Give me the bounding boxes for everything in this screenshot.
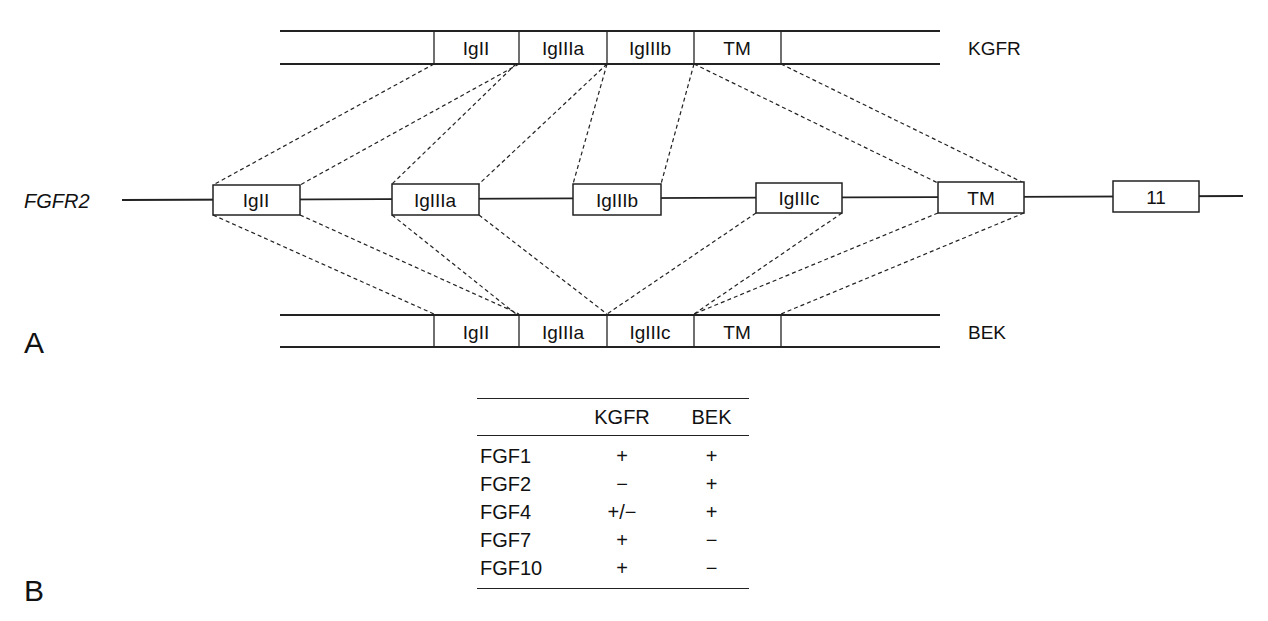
ligand-name: FGF10 — [477, 554, 570, 589]
ligand-name: FGF2 — [477, 470, 570, 498]
bek-isoform-bar — [280, 315, 940, 347]
table-row: FGF4 +/− + — [477, 498, 749, 526]
fgfr2-gene-backbone — [122, 181, 1243, 215]
kgfr-binding: +/− — [570, 498, 674, 526]
table-header-row: KGFR BEK — [477, 399, 749, 436]
header-blank — [477, 399, 570, 436]
ligand-name: FGF1 — [477, 436, 570, 471]
bek-binding: − — [674, 526, 749, 554]
panel-label-a: A — [24, 326, 44, 360]
kgfr-domain-TM: TM — [723, 38, 750, 59]
gene-name-label: FGFR2 — [24, 190, 90, 212]
kgfr-binding: + — [570, 436, 674, 471]
kgfr-binding: − — [570, 470, 674, 498]
kgfr-binding: + — [570, 554, 674, 589]
gene-exon-label-IgIIIb: IgIIIb — [596, 190, 638, 211]
kgfr-domain-IgIIIb: IgIIIb — [629, 38, 671, 59]
gene-exon-label-11: 11 — [1146, 187, 1166, 208]
kgfr-isoform-label: KGFR — [968, 38, 1021, 59]
table-row: FGF2 − + — [477, 470, 749, 498]
kgfr-domain-IgII: IgII — [463, 38, 489, 59]
header-bek: BEK — [674, 399, 749, 436]
bek-isoform-label: BEK — [968, 322, 1006, 343]
gene-exon-label-IgII: IgII — [243, 190, 269, 211]
bek-binding: + — [674, 498, 749, 526]
panel-label-b: B — [24, 574, 44, 608]
bek-binding: + — [674, 436, 749, 471]
kgfr-isoform-bar — [280, 31, 940, 64]
bek-binding: + — [674, 470, 749, 498]
bek-domain-IgIIIa: IgIIIa — [542, 322, 585, 343]
table-row: FGF1 + + — [477, 436, 749, 471]
table-row: FGF10 + − — [477, 554, 749, 589]
kgfr-binding: + — [570, 526, 674, 554]
bek-domain-IgII: IgII — [463, 322, 489, 343]
bek-domain-TM: TM — [723, 322, 750, 343]
gene-exon-label-IgIIIc: IgIIIc — [778, 188, 819, 209]
bek-binding: − — [674, 554, 749, 589]
header-kgfr: KGFR — [570, 399, 674, 436]
gene-exon-label-IgIIIa: IgIIIa — [414, 190, 457, 211]
gene-exon-label-TM: TM — [967, 188, 994, 209]
ligand-binding-table: KGFR BEK FGF1 + + FGF2 − + FGF4 +/− + FG… — [477, 398, 749, 589]
kgfr-domain-IgIIIa: IgIIIa — [542, 38, 585, 59]
ligand-name: FGF7 — [477, 526, 570, 554]
bek-domain-IgIIIc: IgIIIc — [629, 322, 670, 343]
ligand-name: FGF4 — [477, 498, 570, 526]
table-row: FGF7 + − — [477, 526, 749, 554]
